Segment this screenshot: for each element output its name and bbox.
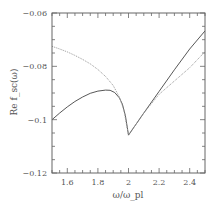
- y-tick-label: −0.12: [22, 169, 47, 178]
- x-tick-label: 2: [126, 178, 131, 187]
- x-tick-label: 1.8: [92, 178, 105, 187]
- y-tick-label: −0.08: [22, 62, 47, 71]
- x-tick-label: 1.6: [61, 178, 74, 187]
- y-axis-label: Re f_sc(ω): [9, 69, 20, 116]
- plot-frame: [52, 13, 205, 173]
- x-tick-label: 2.2: [153, 178, 166, 187]
- x-tick-label: 2.4: [183, 178, 196, 187]
- series-solid-line: [52, 31, 205, 135]
- y-tick-label: −0.1: [28, 116, 47, 125]
- chart: 1.61.822.22.4−0.12−0.1−0.08−0.06 Re f_sc…: [0, 0, 216, 207]
- x-axis-label: ω/ω_pl: [113, 190, 144, 201]
- plot-area: [52, 31, 205, 135]
- axes: 1.61.822.22.4−0.12−0.1−0.08−0.06: [22, 9, 205, 187]
- y-tick-label: −0.06: [22, 9, 47, 18]
